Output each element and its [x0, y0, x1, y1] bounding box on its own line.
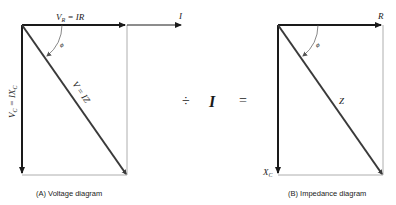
- voltage-diagram-caption: (A) Voltage diagram: [36, 189, 102, 198]
- z-phasor-arrow: [278, 25, 382, 174]
- v-label: V = IZ: [70, 79, 92, 105]
- z-label: Z: [339, 96, 345, 106]
- equals-operator: =: [239, 93, 247, 108]
- phi-label-a: ϕ: [60, 41, 64, 49]
- impedance-diagram: R ϕ Z XC (B) Impedance diagram: [262, 11, 384, 198]
- impedance-diagram-caption: (B) Impedance diagram: [288, 189, 366, 198]
- phi-label-b: ϕ: [316, 41, 320, 49]
- r-label: R: [377, 11, 384, 21]
- vc-label: VC = IXC: [7, 84, 18, 118]
- current-operand: I: [208, 93, 216, 110]
- current-label: I: [178, 11, 183, 21]
- divide-operator: ÷: [182, 94, 190, 109]
- v-phasor-arrow: [22, 25, 126, 174]
- vr-label: VR = IR: [56, 12, 85, 23]
- voltage-diagram: VR = IR I ϕ VC = IXC V = IZ (A) Voltage …: [7, 11, 183, 198]
- phasor-diagram-canvas: VR = IR I ϕ VC = IXC V = IZ (A) Voltage …: [0, 0, 396, 205]
- xc-label: XC: [262, 167, 274, 178]
